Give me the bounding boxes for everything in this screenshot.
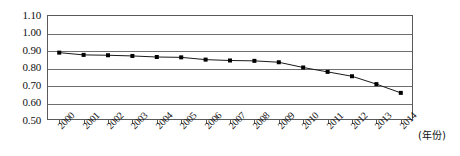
y-axis-tick-label: 1.00 bbox=[1, 27, 41, 38]
data-point-marker bbox=[155, 55, 159, 59]
y-axis-tick-label: 0.80 bbox=[1, 62, 41, 73]
data-point-marker bbox=[106, 53, 110, 57]
data-point-marker bbox=[301, 66, 305, 70]
data-point-marker bbox=[374, 82, 378, 86]
data-point-marker bbox=[252, 59, 256, 63]
data-point-marker bbox=[326, 70, 330, 74]
data-point-marker bbox=[179, 55, 183, 59]
y-axis-tick-label: 0.60 bbox=[1, 97, 41, 108]
y-axis-tick-label: 0.70 bbox=[1, 80, 41, 91]
line-chart: (年份) 0.500.600.700.800.901.001.102000200… bbox=[0, 0, 460, 156]
y-axis-tick-label: 1.10 bbox=[1, 10, 41, 21]
y-axis-tick-label: 0.90 bbox=[1, 45, 41, 56]
data-point-marker bbox=[228, 59, 232, 63]
series-layer bbox=[0, 0, 460, 156]
data-point-marker bbox=[57, 51, 61, 55]
x-axis-title: (年份) bbox=[418, 131, 446, 141]
data-point-marker bbox=[399, 91, 403, 95]
data-point-marker bbox=[277, 60, 281, 64]
data-point-marker bbox=[130, 54, 134, 58]
data-point-marker bbox=[82, 53, 86, 57]
y-axis-tick-label: 0.50 bbox=[1, 115, 41, 126]
data-point-marker bbox=[350, 74, 354, 78]
data-point-marker bbox=[204, 58, 208, 62]
